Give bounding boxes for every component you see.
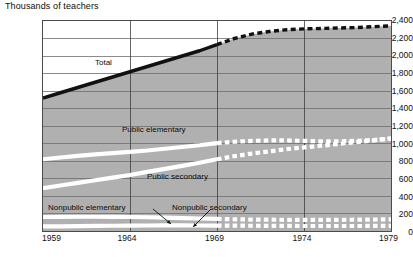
- x-tick-1979: 1979: [379, 234, 398, 243]
- x-tick-1964: 1964: [118, 234, 137, 243]
- x-tick-1959: 1959: [42, 234, 61, 243]
- chart-canvas: [43, 21, 391, 231]
- annotation-total: Total: [95, 58, 112, 67]
- annotation-public-secondary: Public secondary: [147, 172, 208, 181]
- plot-area: [42, 20, 392, 232]
- x-tick-1974: 1974: [293, 234, 312, 243]
- annotation-nonpublic-elementary: Nonpublic elementary: [48, 203, 125, 212]
- chart-title: Thousands of teachers: [5, 1, 99, 11]
- annotation-public-elementary: Public elementary: [122, 125, 186, 134]
- annotation-nonpublic-secondary: Nonpublic secondary: [172, 203, 247, 212]
- chart-figure: Thousands of teachers 2,400 2,200 2,000 …: [0, 0, 413, 257]
- x-tick-1969: 1969: [205, 234, 224, 243]
